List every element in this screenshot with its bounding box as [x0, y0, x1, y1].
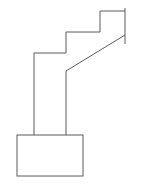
- base-box: [17, 135, 83, 176]
- staircase-outline: [34, 11, 125, 135]
- staircase-diagram: [0, 0, 146, 186]
- staircase-underside: [66, 35, 125, 135]
